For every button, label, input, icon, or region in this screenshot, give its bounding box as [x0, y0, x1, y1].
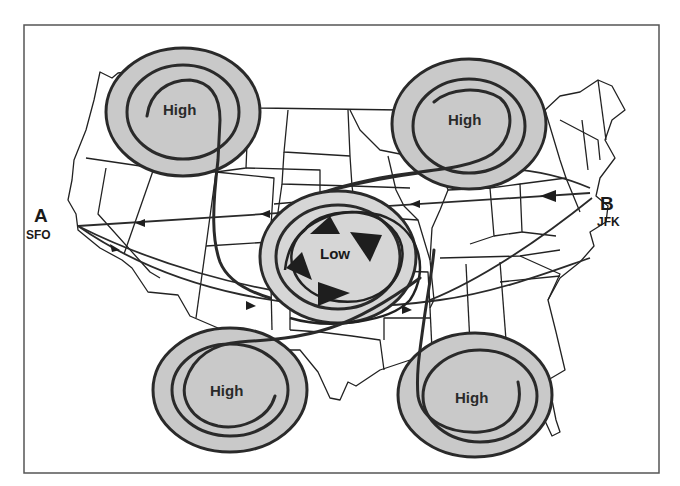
point-b-letter: B: [600, 193, 614, 215]
map-canvas: [0, 0, 680, 486]
label-high-southeast: High: [455, 389, 488, 406]
label-high-northwest: High: [163, 101, 196, 118]
point-a-letter: A: [34, 205, 48, 227]
weather-map-diagram: A SFO B JFK High High Low High High: [0, 0, 680, 486]
label-high-southwest: High: [210, 382, 243, 399]
point-b-airport: JFK: [597, 215, 620, 229]
label-high-northeast: High: [448, 111, 481, 128]
label-low-center: Low: [320, 245, 350, 262]
point-a-airport: SFO: [26, 228, 51, 242]
